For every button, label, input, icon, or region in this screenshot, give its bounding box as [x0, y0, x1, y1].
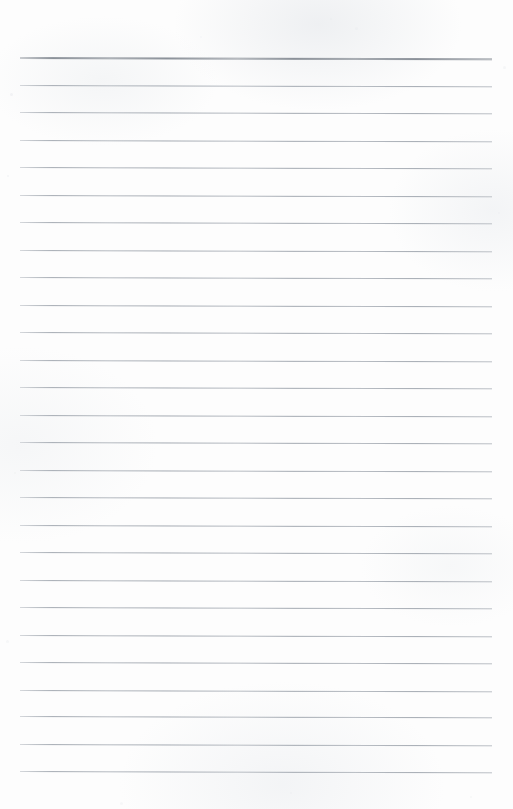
writing-area[interactable]	[20, 57, 492, 771]
ruled-line	[20, 771, 492, 773]
notebook-page	[0, 0, 513, 809]
